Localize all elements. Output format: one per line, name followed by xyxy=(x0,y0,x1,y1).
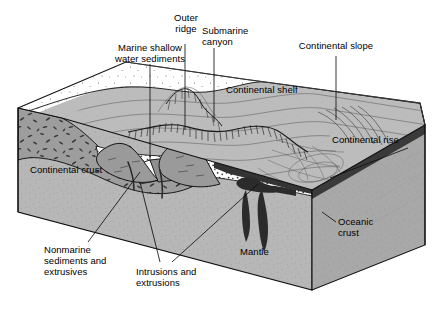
label-intrusions-and-extrusions: Intrusions and extrusions xyxy=(136,266,232,288)
label-continental-rise: Continental rise xyxy=(332,134,432,145)
label-continental-crust: Continental crust xyxy=(30,164,140,175)
label-marine-shallow-water-sediments: Marine shallow water sediments xyxy=(84,42,216,64)
label-mantle: Mantle xyxy=(240,246,296,257)
label-oceanic-crust: Oceanic crust xyxy=(338,216,394,238)
label-submarine-canyon: Submarine canyon xyxy=(202,25,272,47)
label-continental-slope: Continental slope xyxy=(282,40,390,51)
label-nonmarine-sediments-and-extrusives: Nonmarine sediments and extrusives xyxy=(44,244,136,277)
label-continental-shelf: Continental shelf xyxy=(226,84,336,95)
block-diagram-figure: Marine shallow water sediments Outer rid… xyxy=(0,0,446,313)
